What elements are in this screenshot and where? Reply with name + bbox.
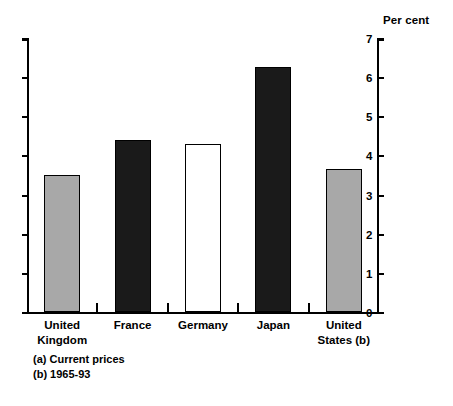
- y-tick-left-7: [22, 38, 29, 40]
- footnotes: (a) Current prices(b) 1965-93: [33, 352, 125, 381]
- y-tick-label-4: 4: [366, 150, 386, 162]
- footnote: (a) Current prices: [33, 352, 125, 367]
- bar: [255, 67, 291, 312]
- y-tick-left-4: [22, 155, 29, 157]
- y-tick-label-6: 6: [366, 72, 386, 84]
- x-tick-separator: [308, 303, 310, 313]
- y-tick-label-1: 1: [366, 268, 386, 280]
- y-tick-left-1: [22, 273, 29, 275]
- y-tick-left-6: [22, 77, 29, 79]
- x-tick-separator: [167, 303, 169, 313]
- y-tick-label-7: 7: [366, 33, 386, 45]
- footnote: (b) 1965-93: [33, 367, 125, 382]
- x-tick-separator: [237, 303, 239, 313]
- y-tick-left-3: [22, 195, 29, 197]
- y-tick-label-5: 5: [366, 111, 386, 123]
- y-tick-label-2: 2: [366, 229, 386, 241]
- y-axis-title: Per cent: [383, 14, 429, 26]
- x-axis-label: United States (b): [303, 318, 385, 347]
- bar: [115, 140, 151, 312]
- bar-chart-figure: Per cent 01234567 United KingdomFranceGe…: [0, 0, 453, 406]
- plot-area: [27, 39, 379, 313]
- x-tick-separator: [96, 303, 98, 313]
- y-tick-label-3: 3: [366, 190, 386, 202]
- y-tick-left-0: [22, 312, 29, 314]
- bar: [185, 144, 221, 312]
- axis-spine-bottom: [27, 312, 379, 314]
- bar: [326, 169, 362, 312]
- bar: [44, 175, 80, 312]
- y-tick-left-2: [22, 234, 29, 236]
- y-tick-left-5: [22, 116, 29, 118]
